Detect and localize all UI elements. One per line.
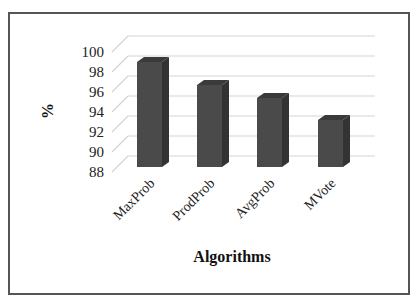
- y-tick-label: 94: [89, 104, 105, 120]
- y-axis-title: %: [39, 103, 56, 119]
- y-tick-label: 98: [89, 64, 104, 80]
- bar-side: [282, 93, 289, 167]
- gridline-side: [112, 96, 128, 112]
- bar-avgprob: [257, 93, 289, 167]
- x-tick-label: MVote: [301, 176, 338, 213]
- bar-mvote: [318, 115, 350, 167]
- bar-front: [318, 120, 343, 167]
- gridline-side: [112, 116, 128, 132]
- bar-side: [343, 115, 350, 167]
- bar-prodprob: [197, 80, 229, 167]
- y-tick-label: 90: [89, 144, 104, 160]
- bar-front: [257, 98, 282, 167]
- y-tick-label: 100: [82, 44, 105, 60]
- gridline-side: [112, 56, 128, 72]
- x-axis-ticks: MaxProbProdProbAvgProbMVote: [110, 176, 338, 224]
- y-tick-label: 96: [89, 84, 105, 100]
- gridline-side: [112, 36, 128, 52]
- bar-front: [137, 62, 162, 167]
- x-tick-label: ProdProb: [170, 176, 218, 224]
- bars: [137, 57, 350, 167]
- y-tick-label: 92: [89, 124, 104, 140]
- chart-svg: 100989694929088 MaxProbProdProbAvgProbMV…: [0, 0, 417, 305]
- y-axis-ticks: 100989694929088: [82, 44, 105, 180]
- x-axis-title: Algorithms: [193, 248, 270, 266]
- y-tick-label: 88: [89, 164, 104, 180]
- bar-side: [222, 80, 229, 167]
- gridline-side: [112, 156, 128, 172]
- x-tick-label: AvgProb: [232, 176, 278, 222]
- bar-front: [197, 85, 222, 167]
- x-tick-label: MaxProb: [110, 176, 157, 223]
- gridline-side: [112, 76, 128, 92]
- bar-maxprob: [137, 57, 169, 167]
- gridline-side: [112, 136, 128, 152]
- bar-side: [162, 57, 169, 167]
